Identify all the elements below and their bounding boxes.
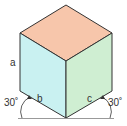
angle-arc-left (21, 97, 30, 118)
label-c: c (87, 93, 92, 104)
cube-drawing: a b c 30˚ 30˚ (0, 0, 127, 126)
label-angle-left: 30˚ (4, 97, 18, 108)
label-angle-right: 30˚ (108, 97, 122, 108)
label-b: b (37, 93, 43, 104)
isometric-cube-diagram: a b c 30˚ 30˚ (0, 0, 127, 126)
label-a: a (10, 57, 16, 68)
